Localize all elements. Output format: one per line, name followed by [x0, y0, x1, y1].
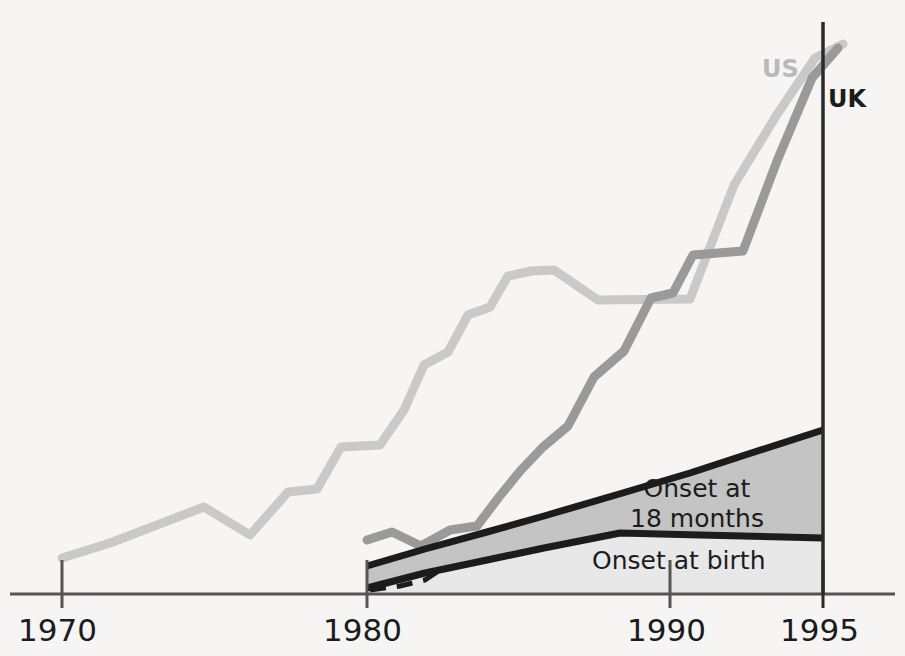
line-chart: 1970 1980 1990 1995 US UK Onset at 18 mo…: [0, 0, 905, 656]
band-label-18-months-line1: Onset at: [644, 474, 751, 503]
band-label-birth: Onset at birth: [592, 546, 766, 575]
series-label-uk: UK: [828, 85, 867, 113]
x-tick-label-1995: 1995: [780, 612, 859, 648]
x-tick-label-1970: 1970: [18, 612, 97, 648]
x-tick-label-1990: 1990: [627, 612, 706, 648]
series-label-us: US: [762, 55, 799, 83]
band-label-18-months-line2: 18 months: [630, 504, 764, 533]
chart-container: 1970 1980 1990 1995 US UK Onset at 18 mo…: [0, 0, 905, 656]
x-tick-label-1980: 1980: [323, 612, 402, 648]
